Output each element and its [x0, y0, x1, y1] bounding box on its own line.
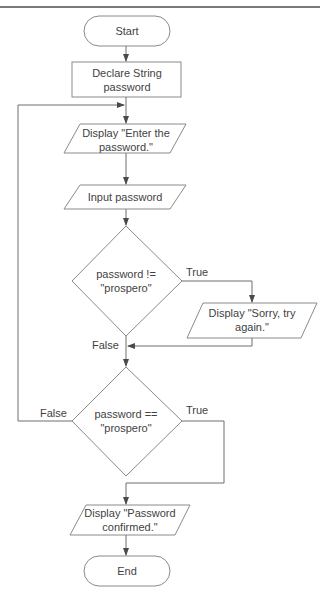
eq-true-label: True: [186, 404, 208, 417]
input-password-label: Input password: [72, 190, 178, 204]
start-label: Start: [84, 24, 170, 38]
display-sorry-label: Display "Sorry, try again.": [200, 306, 304, 334]
display-enter-label: Display "Enter the password.": [80, 126, 172, 154]
display-confirmed-label: Display "Password confirmed.": [80, 506, 180, 534]
arrow-sorry-merge: [128, 338, 252, 346]
decision-ne-label: password != "prospero": [92, 267, 160, 295]
ne-false-label: False: [92, 339, 119, 352]
end-label: End: [84, 564, 170, 578]
arrow-ne-true: [182, 281, 252, 302]
declare-label: Declare String password: [82, 66, 172, 94]
ne-true-label: True: [186, 266, 208, 279]
decision-eq-label: password == "prospero": [90, 407, 162, 435]
eq-false-label: False: [40, 407, 67, 420]
